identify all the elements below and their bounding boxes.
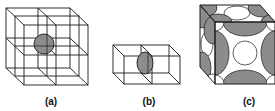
- face-center-sphere: [233, 41, 257, 65]
- panel-c-fcc-cell: [189, 0, 275, 98]
- panel-label-a: (a): [36, 96, 66, 107]
- panel-label-b: (b): [134, 96, 164, 107]
- panel-label-c: (c): [234, 96, 264, 107]
- panel-b-sphere: [137, 52, 153, 74]
- diagram-canvas: [0, 0, 275, 111]
- panel-a-sphere: [34, 34, 54, 54]
